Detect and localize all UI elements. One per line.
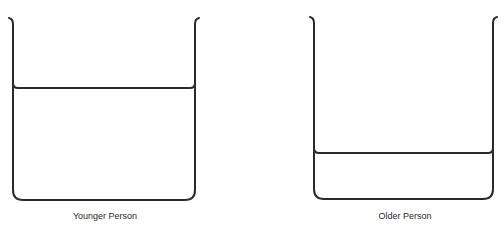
beaker-older-outline xyxy=(310,17,497,199)
label-older-person: Older Person xyxy=(335,211,475,221)
label-younger-person: Younger Person xyxy=(35,211,175,221)
beaker-younger-outline xyxy=(9,18,199,200)
liquid-level-younger xyxy=(13,83,195,88)
beaker-diagram xyxy=(0,0,504,226)
liquid-level-older xyxy=(314,148,493,153)
